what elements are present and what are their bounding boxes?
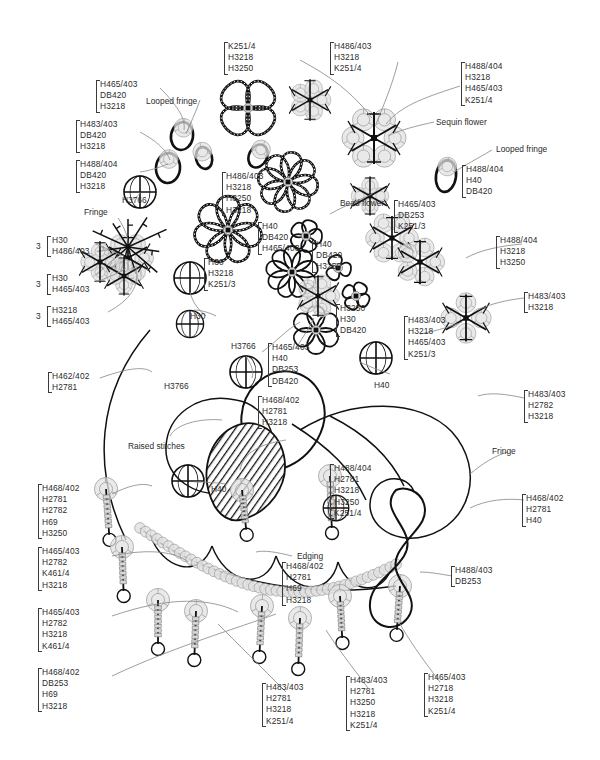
leader-line-27 [112,601,238,616]
label-bracket [330,464,331,519]
technique-label-sequin-flower: Sequin flower [436,117,487,127]
technique-label-fringe-1: Fringe [84,207,108,217]
looped-fringe-motif [434,156,459,193]
label-bracket [224,42,225,75]
code-group-g-h488-top-right: H488/404H3218H465/403K251/4 [465,61,503,106]
code-group-g-h488-h2781-h3218-h3250-k251: H488/404H2781H3218H3250K251/4 [334,463,372,519]
code-group-g-h486-center: H486/403H3218H3250H3218 [226,171,264,216]
code-group-g-h40-db420-h465: H40DB420H465/403 [262,221,300,255]
leader-line-6 [140,164,168,172]
code-group-g-h488-h40-db420: H488/404H40DB420 [466,164,504,198]
label-bracket [258,222,259,255]
label-bracket [204,258,205,291]
looped-fringe-motif [191,140,216,171]
leader-line-15 [170,420,222,436]
code-group-m-h30-h486: H30H486/403 [52,235,90,257]
sequin-cluster [297,275,339,317]
label-bracket [38,608,39,652]
code-group-g-k251-top: K251/4H3218H3250 [228,41,255,75]
fringe-strand [146,588,169,655]
label-bracket [522,494,523,527]
code-group-g-h468-db253-h69-h3218: H468/402DB253H69H3218 [42,667,80,712]
code-group-g-h40-db420-h3250: H40DB420H3250 [316,239,342,273]
label-bracket [76,160,77,193]
looped-fringe-motif [244,137,273,171]
code-group-g-h483-h3218-right: H483/403H3218 [528,291,566,313]
code-label-h3766-a: H3766 [122,195,147,205]
code-group-g-h465-h2718-h3218-k251: H465/403H2718H3218K251/4 [428,672,466,717]
technique-label-looped-fringe-1: Looped fringe [146,96,197,106]
code-group-g-h30-h3218-k251: H30H3218K251/3 [208,257,235,291]
code-group-g-h465-upper-left: H465/403DB420H3218 [100,79,138,113]
label-bracket [47,274,48,295]
label-bracket [312,240,313,273]
code-label-h40-a: H40 [374,380,389,390]
code-group-g-h488-db253: H488/403DB253 [455,565,493,587]
label-bracket [282,562,283,606]
technique-label-looped-fringe-2: Looped fringe [496,144,547,154]
code-group-g-h468-left-5: H468/402H2781H2782H69H3250 [42,483,80,539]
technique-label-edging: Edging [297,551,323,561]
code-group-g-h483-h3218-h465-k251: H483/403H3218H465/403K251/3 [408,315,446,360]
code-group-m-h30-h465: H30H465/403 [52,273,90,295]
fringe-strand [183,599,208,667]
code-group-g-h488-left: H488/404DB420H3218 [80,159,118,193]
label-bracket [336,304,337,337]
technique-label-raised-stitches: Raised stitches [128,441,185,451]
code-group-g-h468-h2781-h3218: H468/402H2781H3218 [262,395,300,429]
code-group-g-h483-left: H483/403DB420H3218 [80,119,118,153]
looped-fringe-motif [169,117,196,152]
leader-line-24 [470,499,524,508]
multiplier-m-h30-h486: 3 [36,241,41,251]
technique-label-fringe-2: Fringe [492,446,516,456]
code-group-g-h483-h2781-h3250-h3218-k251: H483/403H2781H3250H3218K251/4 [350,675,388,731]
label-bracket [47,306,48,327]
fringe-strand [328,584,354,650]
leader-line-30 [420,572,452,576]
leader-line-22 [478,394,524,398]
label-bracket [524,292,525,313]
bead-flower-motif [216,76,279,139]
sequin-cluster [342,109,406,167]
sequin-cluster [351,177,390,216]
multiplier-m-h3218-h465: 3 [36,311,41,321]
leader-line-25 [112,484,152,494]
diagram-canvas: K251/4H3218H3250H486/403H3218K251/4H488/… [0,0,600,760]
label-bracket [38,484,39,539]
sequin-cluster [398,238,445,286]
label-bracket [76,120,77,153]
label-bracket [404,316,405,360]
label-bracket [424,673,425,717]
label-bracket [262,683,263,727]
label-bracket [496,236,497,269]
label-bracket [330,42,331,75]
code-group-m-h3218-h465: H3218H465/403 [52,305,90,327]
code-group-g-h465-h2782-h3218-k461: H465/403H2782H3218K461/4 [42,607,80,652]
label-bracket [462,165,463,198]
code-group-g-h488-h3218-h3250: H488/404H3218H3250 [500,235,538,269]
label-bracket [258,396,259,429]
sequin-cluster [441,293,491,343]
label-bracket [96,80,97,113]
looped-fringe-motif [155,149,182,184]
code-group-g-h462-h2781: H462/402H2781 [52,371,90,393]
technique-label-bead-flower: Bead flower [340,198,384,208]
label-bracket [222,172,223,216]
fringe-strand [385,574,413,642]
fringe-strand [247,594,274,664]
fringe-strand [110,535,135,603]
code-group-g-h465-db253-k251: H465/403DB253K251/3 [398,199,436,233]
label-bracket [451,566,452,587]
multiplier-m-h30-h465: 3 [36,279,41,289]
label-bracket [38,547,39,591]
code-label-h3766-b: H3766 [231,341,256,351]
code-group-g-h465-h40-db253-db420: H465/403H40DB253DB420 [272,342,310,387]
leader-line-21 [478,298,524,310]
label-bracket [47,236,48,257]
code-group-g-h468-h2781-h40: H468/402H2781H40 [526,493,564,527]
label-bracket [394,200,395,233]
code-group-g-h486-top: H486/403H3218K251/4 [334,41,372,75]
label-bracket [48,372,49,393]
code-group-g-h483-h2781-h3218-k251: H483/403H2781H3218K251/4 [266,682,304,727]
label-bracket [346,676,347,731]
